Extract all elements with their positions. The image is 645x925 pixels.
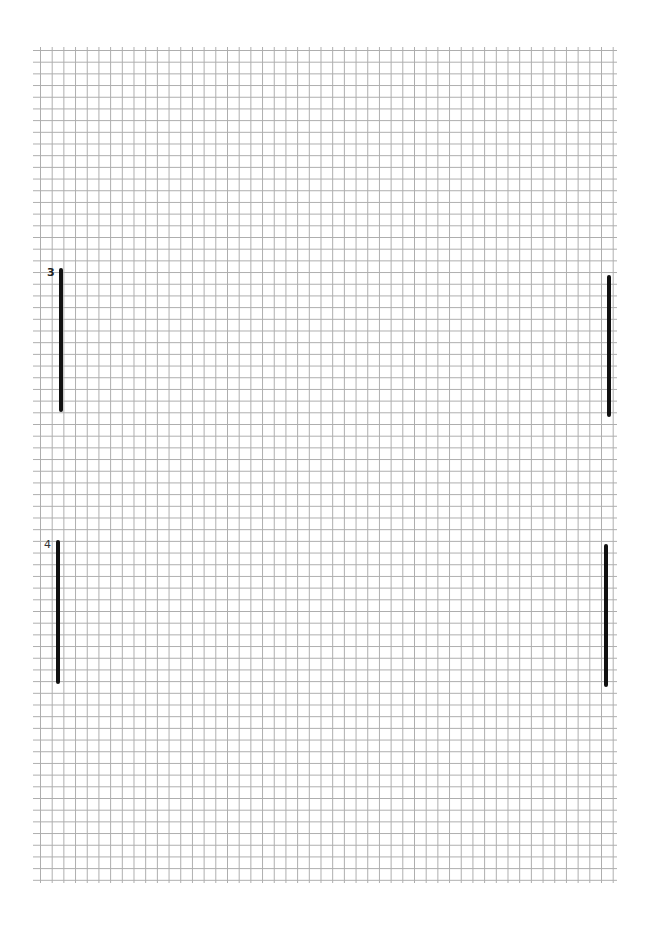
- left-bar-marker-3: [59, 268, 63, 412]
- right-bar-marker-3: [607, 275, 611, 417]
- marker-label-3: 3: [47, 267, 55, 278]
- graph-paper-page: 3 4: [0, 0, 645, 925]
- grid-lines: [33, 47, 617, 883]
- left-bar-marker-4: [56, 540, 60, 684]
- right-bar-marker-4: [604, 544, 608, 687]
- marker-label-4: 4: [44, 539, 51, 550]
